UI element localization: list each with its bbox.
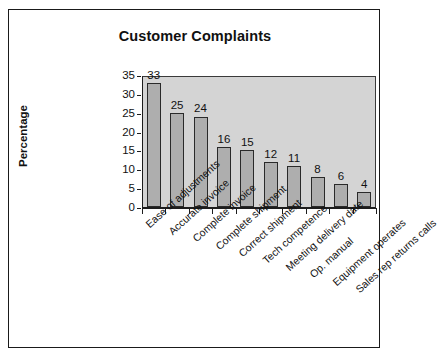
x-tick-mark xyxy=(306,208,307,214)
x-tick-mark xyxy=(142,208,143,214)
chart-frame: Customer Complaints Percentage 353025201… xyxy=(8,9,380,348)
bar-value-label: 4 xyxy=(344,178,384,190)
y-tick-label: 35 xyxy=(109,69,135,81)
y-tick-label: 5 xyxy=(109,182,135,194)
y-tick-mark xyxy=(137,133,141,134)
bar-value-label: 24 xyxy=(181,102,221,114)
chart-title: Customer Complaints xyxy=(9,28,381,44)
y-tick-label: 25 xyxy=(109,107,135,119)
bar-value-label: 33 xyxy=(134,69,174,81)
x-tick-mark xyxy=(376,208,377,214)
y-tick-label: 10 xyxy=(109,163,135,175)
y-axis-title: Percentage xyxy=(17,96,29,176)
y-tick-mark xyxy=(137,151,141,152)
y-tick-mark xyxy=(137,208,141,209)
y-tick-label: 20 xyxy=(109,126,135,138)
bar-value-label: 11 xyxy=(274,152,314,164)
y-tick-mark xyxy=(137,189,141,190)
bar-slot xyxy=(143,77,166,207)
bar-slot xyxy=(283,77,306,207)
y-tick-mark xyxy=(137,170,141,171)
bar-slot xyxy=(307,77,330,207)
x-tick-mark xyxy=(329,208,330,214)
y-tick-label: 15 xyxy=(109,144,135,156)
y-tick-label: 30 xyxy=(109,88,135,100)
bar-value-label: 15 xyxy=(227,136,267,148)
y-tick-label: 0 xyxy=(109,201,135,213)
y-tick-mark xyxy=(137,95,141,96)
y-tick-mark xyxy=(137,114,141,115)
